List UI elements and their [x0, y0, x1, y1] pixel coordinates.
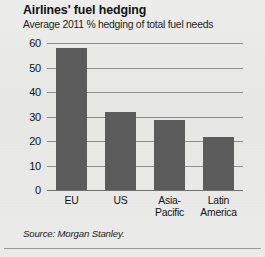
bar — [105, 112, 136, 190]
x-axis-label-line: Latin — [194, 195, 243, 207]
bar-series — [47, 43, 243, 190]
bottom-divider — [4, 248, 261, 249]
bar — [56, 48, 87, 190]
x-axis-baseline — [47, 190, 243, 191]
bar — [203, 137, 234, 190]
chart-figure: Airlines' fuel hedging Average 2011 % he… — [0, 0, 265, 257]
bar — [154, 120, 185, 190]
x-axis-label-line: EU — [47, 195, 96, 207]
chart-title: Airlines' fuel hedging — [23, 3, 259, 18]
y-axis-tick-label: 30 — [29, 112, 41, 123]
x-axis-label-line: Pacific — [145, 207, 194, 219]
chart-subtitle: Average 2011 % hedging of total fuel nee… — [23, 18, 259, 32]
x-axis-tick-label: US — [96, 195, 145, 207]
y-axis-tick-label: 40 — [29, 87, 41, 98]
y-axis-tick-label: 10 — [29, 161, 41, 172]
y-axis-tick-label: 0 — [35, 185, 41, 196]
x-axis-tick-label: LatinAmerica — [194, 195, 243, 219]
x-axis-label-line: America — [194, 207, 243, 219]
y-axis-tick-label: 50 — [29, 63, 41, 74]
x-axis-label-line: Asia- — [145, 195, 194, 207]
plot-area: 6050403020100 EUUSAsia-PacificLatinAmeri… — [47, 43, 243, 190]
y-axis-tick-label: 20 — [29, 136, 41, 147]
x-axis-tick-label: EU — [47, 195, 96, 207]
source-note: Source: Morgan Stanley. — [23, 228, 124, 239]
x-axis-label-line: US — [96, 195, 145, 207]
chart-header: Airlines' fuel hedging Average 2011 % he… — [23, 3, 259, 32]
x-axis-tick-label: Asia-Pacific — [145, 195, 194, 219]
y-axis-tick-label: 60 — [29, 38, 41, 49]
